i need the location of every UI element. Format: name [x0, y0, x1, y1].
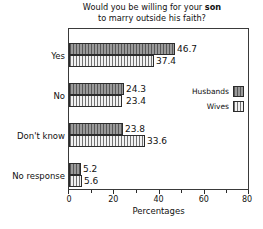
bar-wives-no	[69, 95, 122, 107]
legend-item-husbands: Husbands	[178, 84, 244, 99]
legend-item-wives: Wives	[178, 99, 244, 114]
x-tick-20	[113, 190, 114, 194]
value-label-husbands-yes: 46.7	[177, 45, 197, 54]
bar-wives-yes	[69, 55, 154, 67]
x-tick-label-60: 60	[199, 195, 209, 204]
value-label-wives-no: 23.4	[126, 97, 146, 106]
category-label-yes: Yes	[1, 52, 65, 61]
x-axis-title: Percentages	[68, 206, 249, 216]
legend-label-wives: Wives	[207, 103, 229, 111]
bar-husbands-dont-know	[69, 123, 123, 135]
category-axis-labels: Yes No Don't know No response	[0, 28, 65, 190]
bar-wives-dont-know	[69, 135, 145, 147]
bar-husbands-no-response	[69, 163, 81, 175]
value-label-wives-yes: 37.4	[156, 57, 176, 66]
value-label-wives-dont-know: 33.6	[147, 137, 167, 146]
value-label-husbands-no-response: 5.2	[83, 165, 97, 174]
chart-title-emphasis: son	[205, 2, 221, 12]
x-tick-50	[181, 190, 182, 193]
value-label-husbands-no: 24.3	[126, 85, 146, 94]
x-tick-30	[136, 190, 137, 193]
legend-swatch-husbands-icon	[233, 86, 244, 97]
x-tick-60	[204, 190, 205, 194]
x-tick-80	[248, 190, 249, 194]
legend-swatch-wives-icon	[233, 101, 244, 112]
chart-legend: Husbands Wives	[178, 84, 244, 114]
bar-wives-no-response	[69, 175, 82, 187]
x-axis-tick-labels: 0 20 40 60 80	[68, 195, 249, 206]
x-tick-40	[159, 190, 160, 194]
x-tick-10	[91, 190, 92, 193]
value-label-husbands-dont-know: 23.8	[125, 125, 145, 134]
x-tick-label-40: 40	[153, 195, 163, 204]
x-tick-label-0: 0	[66, 195, 71, 204]
x-tick-70	[226, 190, 227, 193]
category-label-no-response: No response	[1, 172, 65, 181]
category-label-no: No	[1, 92, 65, 101]
legend-label-husbands: Husbands	[192, 88, 229, 96]
x-tick-label-80: 80	[242, 195, 252, 204]
chart-title: Would you be willing for your son to mar…	[56, 2, 248, 23]
chart-title-line1-pre: Would you be willing for your	[83, 2, 205, 12]
x-tick-0	[68, 190, 69, 194]
horizontal-bar-chart: Would you be willing for your son to mar…	[0, 0, 263, 229]
bar-husbands-yes	[69, 43, 175, 55]
bar-husbands-no	[69, 83, 124, 95]
chart-title-line2: to marry outside his faith?	[98, 13, 206, 23]
value-label-wives-no-response: 5.6	[84, 177, 98, 186]
category-label-dont-know: Don't know	[1, 132, 65, 141]
x-tick-label-20: 20	[108, 195, 118, 204]
